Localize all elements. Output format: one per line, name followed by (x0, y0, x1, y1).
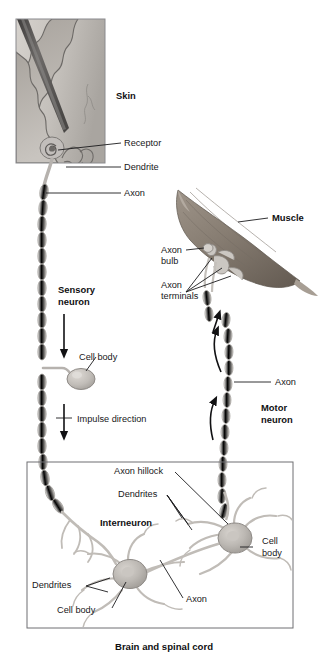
receptor-coil (40, 137, 64, 159)
label-interneuron: Interneuron (100, 517, 152, 528)
muscle-tendon-lower (294, 279, 318, 296)
label-motor-line2: neuron (261, 414, 293, 425)
skin-inset-panel (16, 19, 105, 168)
sensory-soma-stalk (43, 368, 70, 373)
motor-arrow-lower (211, 400, 215, 440)
reflex-arc-diagram: Skin Receptor Dendrite Axon Muscle Axon … (0, 0, 329, 661)
label-receptor: Receptor (124, 138, 161, 148)
label-skin: Skin (116, 90, 136, 101)
label-axon-hillock: Axon hillock (114, 466, 163, 476)
muscle (177, 188, 319, 296)
label-sensory-line2: neuron (58, 296, 90, 307)
motor-arrow-upper (214, 330, 221, 372)
label-axon-terminals-line1: Axon (161, 280, 182, 290)
label-dendrites-top: Dendrites (118, 489, 158, 499)
label-axon-bottom: Axon (186, 594, 207, 604)
label-axon-bulb-line1: Axon (161, 245, 182, 255)
terminal-arrow (213, 314, 219, 332)
label-cell-body-bottom: Cell body (57, 605, 96, 615)
label-motor-line1: Motor (261, 402, 287, 413)
label-cell-body-right-line2: body (262, 548, 282, 558)
label-cell-body-right-line1: Cell (262, 536, 278, 546)
sensory-cell-body (67, 369, 95, 390)
figure-caption: Brain and spinal cord (115, 641, 213, 652)
motor-neuron-soma-group (176, 488, 292, 574)
label-dendrite: Dendrite (124, 162, 159, 172)
axon-bulb (203, 244, 213, 253)
label-dendrites-bottom: Dendrites (32, 580, 72, 590)
label-sensory-line1: Sensory (58, 284, 96, 295)
label-axon-motor: Axon (275, 377, 296, 387)
motor-neuron (202, 258, 233, 519)
sensory-axon-myelin (38, 183, 66, 515)
label-cell-body-sensory: Cell body (79, 352, 118, 362)
motor-axon-myelin (202, 290, 233, 519)
label-muscle: Muscle (272, 212, 304, 223)
label-axon-bulb-line2: bulb (161, 256, 178, 266)
reflex-arc-illustration: Skin Receptor Dendrite Axon Muscle Axon … (0, 0, 329, 661)
brain-spinal-cord-box (27, 462, 293, 628)
label-axon-terminals-line2: terminals (161, 291, 199, 301)
label-axon-top: Axon (124, 188, 145, 198)
label-impulse-direction: Impulse direction (77, 414, 146, 424)
